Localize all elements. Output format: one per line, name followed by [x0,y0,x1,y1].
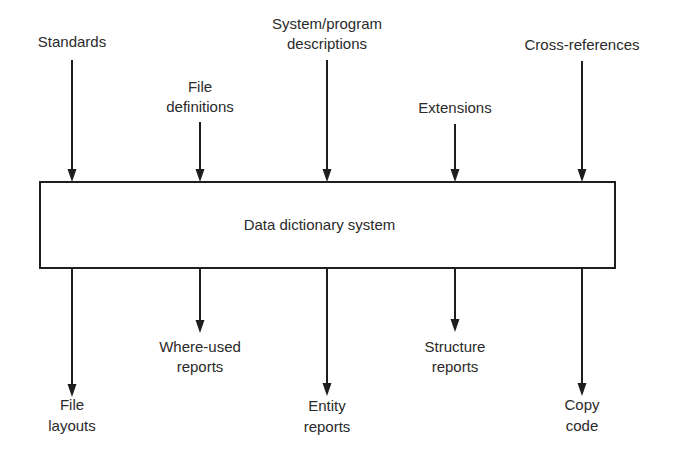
arrowhead-icon [323,169,332,182]
output-structure-reports: Structurereports [425,268,486,375]
output-label-line: Where-used [159,338,241,355]
arrowhead-icon [196,320,205,333]
output-label-line: layouts [48,417,96,434]
central-box-label: Data dictionary system [244,216,396,233]
input-extensions: Extensions [418,99,491,182]
input-label-line: descriptions [287,35,367,52]
output-label-line: reports [432,358,479,375]
output-label-line: reports [304,418,351,435]
input-label-line: definitions [166,98,234,115]
output-file-layouts: Filelayouts [48,268,96,434]
central-box: Data dictionary system [40,182,615,268]
output-label-line: code [566,417,599,434]
output-label-line: reports [177,358,224,375]
arrowhead-icon [323,383,332,396]
input-label-line: Standards [38,33,106,50]
arrowhead-icon [578,169,587,182]
arrowhead-icon [68,169,77,182]
output-flows: FilelayoutsWhere-usedreportsEntityreport… [48,268,600,435]
output-entity-reports: Entityreports [304,268,351,435]
input-label-line: File [188,78,212,95]
arrowhead-icon [451,169,460,182]
output-label-line: File [60,396,84,413]
input-label-line: Cross-references [524,36,639,53]
input-system-program-descriptions: System/programdescriptions [272,15,382,182]
input-file-definitions: Filedefinitions [166,78,234,182]
input-standards: Standards [38,33,106,182]
input-label-line: Extensions [418,99,491,116]
arrowhead-icon [451,319,460,332]
output-label-line: Copy [564,396,600,413]
output-label-line: Entity [308,397,346,414]
output-label-line: Structure [425,338,486,355]
arrowhead-icon [578,383,587,396]
output-copy-code: Copycode [564,268,600,434]
input-flows: StandardsFiledefinitionsSystem/programde… [38,15,640,182]
output-where-used-reports: Where-usedreports [159,268,241,375]
data-dictionary-diagram: StandardsFiledefinitionsSystem/programde… [0,0,680,461]
arrowhead-icon [196,169,205,182]
input-cross-references: Cross-references [524,36,639,182]
input-label-line: System/program [272,15,382,32]
